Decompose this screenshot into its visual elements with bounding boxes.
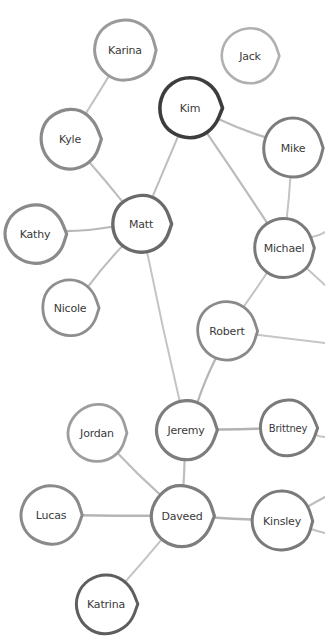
node-circle[interactable] <box>198 302 258 360</box>
node-circle[interactable] <box>68 404 127 461</box>
node-circle[interactable] <box>21 486 82 544</box>
graph-node-kinsley[interactable]: Kinsley <box>252 491 313 550</box>
network-graph-canvas: KarinaJackKimKyleMikeKathyMattMichaelNic… <box>0 0 325 641</box>
node-circle[interactable] <box>41 109 101 169</box>
node-circle[interactable] <box>255 219 315 278</box>
graph-node-jack[interactable]: Jack <box>222 28 280 83</box>
node-circle[interactable] <box>76 575 137 634</box>
graph-node-karina[interactable]: Karina <box>95 20 157 80</box>
graph-node-kyle[interactable]: Kyle <box>41 109 101 169</box>
node-circle[interactable] <box>95 20 157 80</box>
graph-node-matt[interactable]: Matt <box>113 195 172 252</box>
graph-node-kim[interactable]: Kim <box>160 78 223 138</box>
node-circle[interactable] <box>5 205 67 263</box>
graph-node-michael[interactable]: Michael <box>255 219 315 278</box>
graph-node-lucas[interactable]: Lucas <box>21 486 82 544</box>
graph-node-jeremy[interactable]: Jeremy <box>156 401 217 460</box>
node-circle[interactable] <box>222 28 280 83</box>
node-circle[interactable] <box>151 486 214 547</box>
graph-node-daveed[interactable]: Daveed <box>151 486 214 547</box>
graph-node-jordan[interactable]: Jordan <box>68 404 127 461</box>
graph-node-nicole[interactable]: Nicole <box>43 280 99 336</box>
graph-node-mike[interactable]: Mike <box>264 118 323 177</box>
node-circle[interactable] <box>160 78 223 138</box>
graph-node-katrina[interactable]: Katrina <box>76 575 137 634</box>
graph-node-robert[interactable]: Robert <box>198 302 258 360</box>
node-circle[interactable] <box>252 491 313 550</box>
node-circle[interactable] <box>43 280 99 336</box>
node-circle[interactable] <box>264 118 323 177</box>
node-circle[interactable] <box>113 195 172 252</box>
node-circle[interactable] <box>156 401 217 460</box>
graph-edge <box>183 460 184 485</box>
graph-edge <box>216 429 260 430</box>
graph-node-kathy[interactable]: Kathy <box>5 205 67 263</box>
graph-edge <box>81 515 151 516</box>
